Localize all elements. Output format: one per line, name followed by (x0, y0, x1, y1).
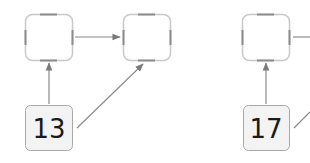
value-13-label: 13 (32, 114, 65, 144)
value-17-label: 17 (249, 114, 282, 144)
diagram-canvas: 13 17 (0, 0, 310, 163)
slot-box-2 (124, 15, 171, 61)
value-box-17: 17 (244, 106, 290, 151)
slot-box-1 (26, 15, 73, 61)
arrow-13-to-slot2 (77, 64, 143, 128)
arrow-17-diagonal (294, 112, 310, 128)
slot-box-3 (243, 15, 290, 61)
value-box-13: 13 (26, 106, 73, 151)
